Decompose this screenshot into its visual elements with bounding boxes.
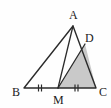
vertex-label-b: B (12, 86, 20, 98)
vertex-label-a: A (69, 9, 78, 21)
geometry-figure: A D B M C (0, 0, 111, 108)
vertex-label-d: D (85, 32, 94, 44)
vertex-label-c: C (99, 86, 107, 98)
vertex-label-m: M (53, 94, 64, 106)
